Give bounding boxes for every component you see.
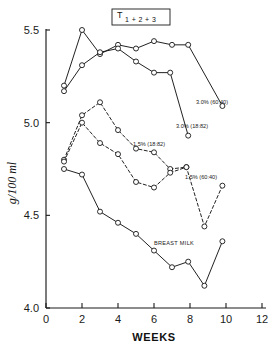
x-tick-label: 0	[43, 313, 49, 325]
data-point	[98, 50, 103, 55]
data-point	[220, 239, 225, 244]
data-point	[152, 150, 157, 155]
data-point	[186, 259, 191, 264]
data-point	[116, 128, 121, 133]
series-line-0	[64, 30, 222, 106]
annotation-1-5-1882: 1.5% (18:82)	[133, 141, 165, 147]
chart-figure: 4.04.55.05.5024681012WEEKSg/100 mlT1 + 2…	[0, 0, 276, 355]
data-point	[168, 170, 173, 175]
data-point	[98, 141, 103, 146]
x-axis-title: WEEKS	[132, 331, 175, 343]
line-chart: 4.04.55.05.5024681012WEEKSg/100 mlT1 + 2…	[0, 0, 276, 355]
data-point	[134, 59, 139, 64]
data-point	[98, 100, 103, 105]
data-point	[80, 28, 85, 33]
x-tick-label: 10	[220, 313, 232, 325]
data-point	[202, 224, 207, 229]
data-point	[116, 152, 121, 157]
data-point	[62, 83, 67, 88]
x-tick-label: 2	[79, 313, 85, 325]
series-line-4	[64, 169, 222, 286]
data-point	[168, 70, 173, 75]
data-point	[62, 159, 67, 164]
y-axis-title: g/100 ml	[5, 161, 19, 204]
data-point	[98, 209, 103, 214]
y-tick-label: 4.5	[24, 209, 39, 221]
data-point	[186, 133, 191, 138]
annotation-3-0-6040: 3.0% (60:40)	[196, 99, 228, 105]
series-line-2	[64, 102, 186, 169]
title-sub-label: 1 + 2 + 3	[125, 16, 156, 23]
y-tick-label: 4.0	[24, 302, 39, 314]
data-point	[134, 179, 139, 184]
data-point	[80, 63, 85, 68]
data-point	[184, 165, 189, 170]
x-tick-label: 8	[187, 313, 193, 325]
data-point	[202, 283, 207, 288]
data-point	[186, 42, 191, 47]
data-point	[116, 220, 121, 225]
title-main-label: T	[117, 10, 123, 20]
data-point	[152, 248, 157, 253]
data-point	[80, 113, 85, 118]
data-point	[152, 39, 157, 44]
data-point	[134, 46, 139, 51]
data-point	[152, 185, 157, 190]
data-point	[116, 46, 121, 51]
data-point	[62, 89, 67, 94]
y-tick-label: 5.0	[24, 117, 39, 129]
annotation-3-0-1882: 3.0% (18:82)	[176, 123, 208, 129]
data-point	[80, 120, 85, 125]
annotation-breast-milk: BREAST MILK	[154, 240, 194, 246]
data-point	[62, 167, 67, 172]
data-point	[134, 231, 139, 236]
annotation-1-5-6040: 1.5% (60:40)	[185, 174, 217, 180]
x-tick-label: 6	[151, 313, 157, 325]
data-point	[220, 183, 225, 188]
x-tick-label: 4	[115, 313, 121, 325]
x-tick-label: 12	[256, 313, 268, 325]
data-point	[80, 172, 85, 177]
y-tick-label: 5.5	[24, 24, 39, 36]
data-point	[152, 70, 157, 75]
data-point	[170, 42, 175, 47]
data-point	[170, 265, 175, 270]
